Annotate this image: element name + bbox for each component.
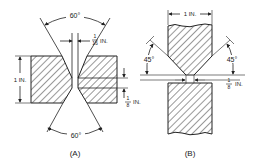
root-face-denominator: 8: [127, 102, 130, 108]
weld-joint-diagram: 60° 60° 1 16 IN. 1 IN. 1 8 IN. (A): [0, 0, 261, 165]
figure-a-caption: (A): [70, 149, 81, 158]
width-label: 1 IN.: [184, 11, 197, 17]
figure-b-bevel-joint: 1 IN. 45° 45° 1 8 IN. (B): [140, 10, 245, 158]
root-gap-denominator: 16: [92, 40, 98, 46]
root-gap-unit: IN.: [100, 38, 108, 44]
top-angle-label: 60°: [70, 12, 81, 19]
left-angle-label: 45°: [144, 56, 155, 63]
left-plate: [31, 56, 72, 103]
gap-denominator: 8: [228, 84, 231, 90]
bottom-angle-label: 60°: [71, 132, 82, 139]
gap-numerator: 1: [228, 77, 231, 83]
bottom-member: [168, 83, 212, 135]
root-face-unit: IN.: [133, 99, 141, 105]
gap-unit: IN.: [235, 81, 243, 87]
root-face-numerator: 1: [127, 95, 130, 101]
right-angle-label: 45°: [227, 56, 238, 63]
figure-a-double-v-groove: 60° 60° 1 16 IN. 1 IN. 1 8 IN. (A): [14, 11, 141, 158]
right-plate: [78, 56, 117, 103]
figure-b-caption: (B): [185, 149, 196, 158]
top-member: [168, 24, 212, 75]
root-gap-numerator: 1: [94, 33, 97, 39]
thickness-label: 1 IN.: [14, 77, 27, 83]
